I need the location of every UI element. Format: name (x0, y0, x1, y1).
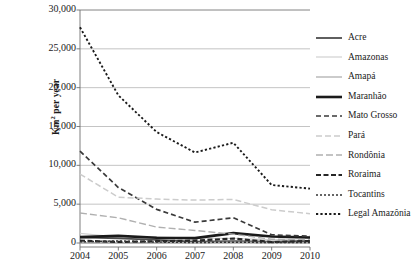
legend-item-amazonas[interactable]: Amazonas (316, 48, 420, 68)
legend-swatch-maranh-o (316, 92, 342, 102)
legend-item-legal-amaz-nia[interactable]: Legal Amazônia (316, 204, 420, 224)
legend-item-par-[interactable]: Pará (316, 126, 420, 146)
legend-label-par-: Pará (348, 131, 365, 141)
y-axis-tick-label: 15,000 (32, 121, 76, 131)
series-line-par- (80, 174, 310, 214)
legend-swatch-rond-nia (316, 150, 342, 160)
legend-label-amazonas: Amazonas (348, 53, 388, 63)
legend-swatch-amazonas (316, 52, 342, 62)
legend-swatch-acre (316, 33, 342, 43)
series-line-maranh-o (80, 233, 310, 238)
y-axis-tick-label: 10,000 (32, 159, 76, 169)
legend-item-rond-nia[interactable]: Rondônia (316, 146, 420, 166)
legend-swatch-amap- (316, 72, 342, 82)
x-axis-tick-label: 2009 (252, 250, 292, 261)
series-line-legal-amaz-nia (80, 27, 310, 188)
legend-item-mato-grosso[interactable]: Mato Grosso (316, 106, 420, 126)
legend-label-tocantins: Tocantins (348, 190, 385, 200)
y-axis-tick-label: 25,000 (32, 43, 76, 53)
legend-swatch-legal-amaz-nia (316, 209, 342, 219)
series-line-mato-grosso (80, 151, 310, 236)
y-axis-tick-label: 5,000 (32, 198, 76, 208)
legend-swatch-par- (316, 131, 342, 141)
legend-label-maranh-o: Maranhão (348, 92, 387, 102)
x-axis-tick-label: 2007 (175, 250, 215, 261)
legend-item-roraima[interactable]: Roraima (316, 165, 420, 185)
x-axis-tick-label: 2004 (60, 250, 100, 261)
legend-label-acre: Acre (348, 33, 366, 43)
y-axis-tick-labels: 05,00010,00015,00020,00025,00030,000 (28, 0, 76, 278)
legend-label-roraima: Roraima (348, 170, 381, 180)
chart-legend: AcreAmazonasAmapáMaranhãoMato GrossoPará… (316, 28, 420, 224)
x-axis-tick-label: 2008 (213, 250, 253, 261)
legend-item-maranh-o[interactable]: Maranhão (316, 87, 420, 107)
deforestation-line-chart: Km2 per year 05,00010,00015,00020,00025,… (0, 0, 420, 278)
legend-swatch-roraima (316, 170, 342, 180)
y-axis-tick-label: 0 (32, 237, 76, 247)
legend-item-acre[interactable]: Acre (316, 28, 420, 48)
legend-swatch-tocantins (316, 190, 342, 200)
x-axis-tick-label: 2005 (98, 250, 138, 261)
y-axis-tick-label: 20,000 (32, 82, 76, 92)
legend-label-amap-: Amapá (348, 72, 375, 82)
legend-item-tocantins[interactable]: Tocantins (316, 185, 420, 205)
y-axis-tick-label: 30,000 (32, 4, 76, 14)
legend-label-rond-nia: Rondônia (348, 151, 385, 161)
legend-label-legal-amaz-nia: Legal Amazônia (348, 209, 411, 219)
legend-label-mato-grosso: Mato Grosso (348, 111, 397, 121)
legend-swatch-mato-grosso (316, 111, 342, 121)
x-axis-tick-label: 2010 (290, 250, 330, 261)
x-axis-tick-label: 2006 (137, 250, 177, 261)
legend-item-amap-[interactable]: Amapá (316, 67, 420, 87)
